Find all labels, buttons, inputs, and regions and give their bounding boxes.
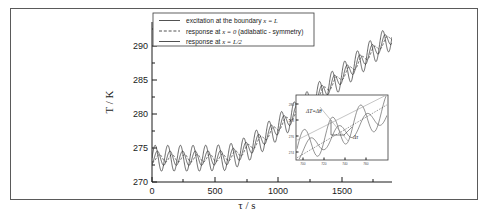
x-tick-labels: 0 500 1000 1500: [149, 186, 352, 196]
inset-x-tick-label: 700: [300, 162, 306, 166]
inset-y-tick-label: 274: [289, 151, 295, 155]
x-tick-label: 1000: [268, 186, 288, 196]
screenshot-root: 270 275 280 285 290 0 500 1000 1500 τ / …: [0, 0, 494, 220]
x-ticks: [152, 177, 373, 182]
x-axis-title: τ / s: [238, 199, 255, 211]
inset-annotation-delta-T: ΔT=Δθ: [305, 108, 322, 114]
legend: excitation at the boundary x = L respons…: [153, 13, 314, 46]
inset-annotation-delta-tau: Δτ: [352, 134, 359, 140]
y-tick-label: 280: [133, 109, 148, 119]
x-tick-label: 0: [149, 186, 154, 196]
legend-label-response-x-half: response at x = L/2: [186, 38, 242, 46]
y-tick-label: 290: [133, 41, 148, 51]
legend-label-response-x0: response at x = 0 (adiabatic - symmetry): [186, 28, 303, 36]
inset-x-tick-label: 760: [363, 162, 369, 166]
y-axis-title: T / K: [103, 90, 115, 113]
y-tick-labels: 270 275 280 285 290: [133, 41, 148, 187]
inset-x-tick-label: 720: [321, 162, 327, 166]
inset-y-tick-label: 278: [289, 119, 295, 123]
inset-plot: ΔT=Δθ Δτ 700 720 740 760 280 278 276: [289, 94, 388, 166]
chart-figure: 270 275 280 285 290 0 500 1000 1500 τ / …: [0, 0, 494, 220]
x-tick-label: 500: [207, 186, 222, 196]
y-tick-label: 270: [133, 177, 148, 187]
inset-y-tick-label: 276: [289, 135, 295, 139]
x-tick-label: 1500: [332, 186, 352, 196]
y-tick-label: 275: [133, 143, 148, 153]
legend-label-excitation: excitation at the boundary x = L: [186, 17, 278, 25]
inset-y-tick-label: 280: [289, 103, 295, 107]
y-tick-label: 285: [133, 75, 148, 85]
inset-x-tick-label: 740: [342, 162, 348, 166]
y-ticks: [152, 29, 157, 182]
